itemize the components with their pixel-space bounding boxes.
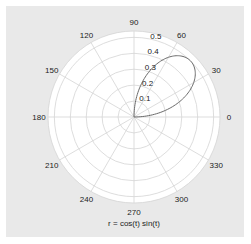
figure-panel: 0306090120150180210240270300330 0.10.20.… — [6, 6, 244, 237]
angular-tick-label: 90 — [130, 18, 139, 27]
radial-tick-label: 0.3 — [145, 63, 157, 72]
angular-tick-label: 210 — [45, 161, 59, 170]
angular-tick-label: 30 — [212, 66, 221, 75]
angular-tick-label: 300 — [175, 195, 189, 204]
angular-tick-label: 150 — [45, 66, 59, 75]
angular-tick-label: 270 — [127, 208, 141, 217]
radial-tick-label: 0.2 — [142, 79, 154, 88]
radial-tick-label: 0.4 — [148, 47, 160, 56]
polar-plot: 0306090120150180210240270300330 0.10.20.… — [6, 6, 244, 237]
radial-tick-label: 0.5 — [150, 32, 162, 41]
angular-tick-label: 120 — [80, 31, 94, 40]
radial-tick-label: 0.1 — [139, 94, 151, 103]
angular-tick-label: 60 — [177, 31, 186, 40]
angular-tick-label: 180 — [32, 113, 46, 122]
angular-tick-label: 240 — [80, 195, 94, 204]
angular-tick-label: 330 — [210, 161, 224, 170]
angular-tick-label: 0 — [227, 113, 232, 122]
chart-title: r = cos(t) sin(t) — [108, 219, 160, 228]
